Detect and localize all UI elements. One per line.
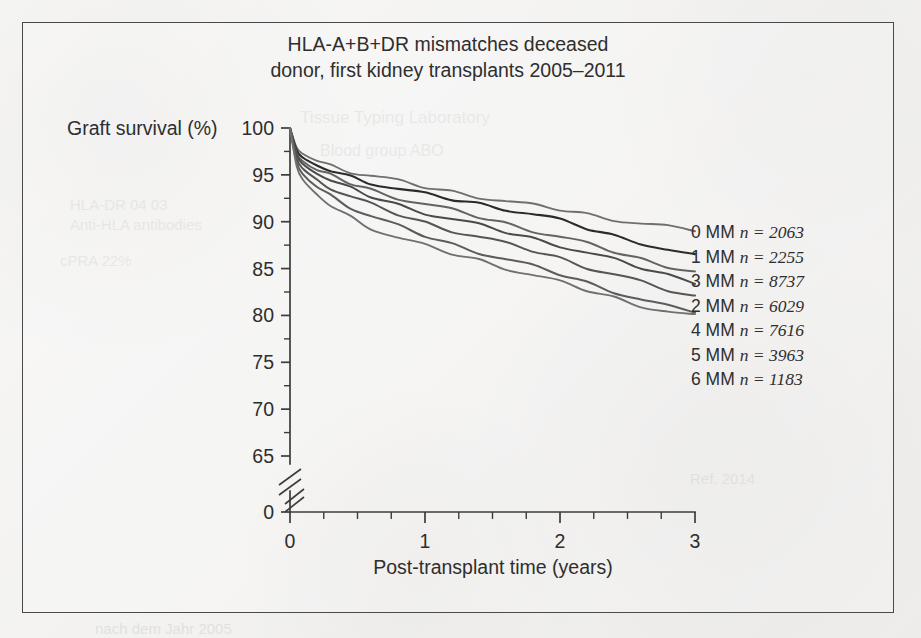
- graft-survival-line-chart: HLA-A+B+DR mismatches deceased donor, fi…: [23, 23, 895, 614]
- legend-label-1-mm: 1 MM n = 2255: [691, 247, 804, 267]
- legend: 0 MM n = 20631 MM n = 22553 MM n = 87372…: [691, 222, 805, 389]
- legend-count-3-mm: n = 8737: [740, 271, 806, 291]
- survival-curves-group: [290, 128, 695, 314]
- legend-count-1-mm: n = 2255: [740, 247, 805, 267]
- legend-label-0-mm: 0 MM n = 2063: [691, 222, 804, 242]
- curve-4-mm: [290, 128, 695, 296]
- y-tick-label-90: 90: [252, 211, 274, 233]
- y-tick-label-65: 65: [252, 445, 274, 467]
- figure-frame: HLA-A+B+DR mismatches deceased donor, fi…: [22, 22, 894, 613]
- y-tick-label-70: 70: [252, 398, 274, 420]
- axis-break-slash-1: [279, 469, 301, 485]
- curve-1-mm: [290, 128, 695, 254]
- legend-count-4-mm: n = 7616: [740, 320, 805, 340]
- x-axis-break-slash-2: [285, 497, 304, 512]
- legend-count-0-mm: n = 2063: [740, 222, 805, 242]
- legend-label-3-mm: 3 MM n = 8737: [691, 271, 805, 291]
- x-tick-label-3: 3: [690, 530, 701, 552]
- y-axis-title: Graft survival (%): [67, 117, 218, 139]
- x-tick-label-0: 0: [285, 530, 296, 552]
- x-axis-break-slash-1: [285, 489, 304, 504]
- y-tick-label-zero: 0: [263, 501, 274, 523]
- legend-count-5-mm: n = 3963: [740, 345, 805, 365]
- y-tick-label-95: 95: [252, 164, 274, 186]
- y-tick-label-85: 85: [252, 258, 274, 280]
- x-tick-label-1: 1: [420, 530, 431, 552]
- legend-label-4-mm: 4 MM n = 7616: [691, 320, 804, 340]
- chart-title-line-2: donor, first kidney transplants 2005–201…: [270, 59, 625, 81]
- y-tick-label-100: 100: [241, 117, 274, 139]
- legend-label-2-mm: 2 MM n = 6029: [691, 296, 804, 316]
- legend-label-5-mm: 5 MM n = 3963: [691, 345, 804, 365]
- legend-label-6-mm: 6 MM n = 1183: [691, 369, 803, 389]
- y-tick-label-80: 80: [252, 304, 274, 326]
- legend-count-6-mm: n = 1183: [740, 369, 803, 389]
- x-axis-ticks: 0123: [285, 512, 701, 552]
- legend-count-2-mm: n = 6029: [740, 296, 805, 316]
- y-axis-ticks: 10095908580757065: [241, 117, 290, 467]
- chart-title-line-1: HLA-A+B+DR mismatches deceased: [288, 33, 609, 55]
- y-tick-label-75: 75: [252, 351, 274, 373]
- x-tick-label-2: 2: [555, 530, 566, 552]
- x-axis-title: Post-transplant time (years): [373, 556, 613, 578]
